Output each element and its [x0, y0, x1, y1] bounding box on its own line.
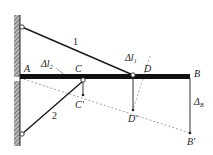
point-d-prime [132, 109, 135, 112]
label-delta-B: ΔB [193, 96, 204, 108]
pin-top [20, 25, 24, 29]
pin-d [131, 73, 135, 77]
svg-text:Δl1: Δl1 [124, 52, 137, 64]
label-A: A [23, 63, 31, 74]
svg-text:Δl2: Δl2 [40, 58, 53, 70]
label-C: C [75, 63, 82, 74]
bar-2 [22, 81, 83, 134]
truss-deflection-diagram: 1 2 A B C D C' D' B' Δl1 Δl2 ΔB [0, 0, 213, 155]
pin-c [81, 78, 85, 82]
label-bar-1: 1 [73, 36, 78, 47]
pin-bottom [20, 132, 24, 136]
label-delta-l2: Δl2 [40, 58, 53, 70]
label-bar-2: 2 [52, 110, 57, 121]
label-delta-l1: Δl1 [124, 52, 137, 64]
label-C-prime: C' [75, 99, 85, 110]
label-D-prime: D' [127, 113, 138, 124]
svg-text:ΔB: ΔB [193, 96, 204, 108]
label-B: B [194, 68, 200, 79]
point-c-prime [82, 94, 85, 97]
beam-AB [20, 74, 190, 79]
wall-support [14, 15, 20, 146]
deformed-line [20, 78, 190, 133]
label-B-prime: B' [187, 136, 196, 147]
label-D: D [143, 63, 152, 74]
point-b-prime [189, 132, 192, 135]
